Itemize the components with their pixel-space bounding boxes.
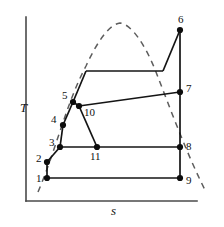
process-line-5-upper-rise <box>73 71 86 102</box>
state-point-9 <box>177 175 183 181</box>
state-label-8: 8 <box>186 140 192 152</box>
state-point-6 <box>177 27 183 33</box>
state-point-10 <box>76 103 82 109</box>
state-point-7 <box>177 89 183 95</box>
x-axis-label: s <box>111 203 116 218</box>
state-point-5 <box>70 99 76 105</box>
state-label-9: 9 <box>186 174 192 186</box>
state-label-3: 3 <box>49 136 55 148</box>
state-point-markers <box>44 27 183 181</box>
state-point-3 <box>57 144 63 150</box>
state-label-7: 7 <box>186 82 192 94</box>
state-point-8 <box>177 144 183 150</box>
y-axis-label: T <box>20 100 28 115</box>
state-point-1 <box>44 175 50 181</box>
ts-diagram-canvas: 1234567891011 T s <box>0 0 224 227</box>
state-label-5: 5 <box>62 89 68 101</box>
state-label-6: 6 <box>178 13 184 25</box>
state-label-1: 1 <box>36 172 42 184</box>
state-point-labels: 1234567891011 <box>36 13 192 186</box>
cycle-process-lines <box>47 30 180 178</box>
axes-group <box>26 17 197 201</box>
state-point-2 <box>44 159 50 165</box>
ts-diagram-figure: 1234567891011 T s <box>0 0 224 227</box>
state-point-4 <box>60 122 66 128</box>
state-label-4: 4 <box>51 113 57 125</box>
state-label-11: 11 <box>90 150 101 162</box>
process-line-upper-to-6 <box>163 30 180 71</box>
process-line-10-7-isobar <box>79 92 180 106</box>
state-label-2: 2 <box>36 152 42 164</box>
state-label-10: 10 <box>84 106 96 118</box>
process-line-4-5-heating <box>63 102 73 125</box>
